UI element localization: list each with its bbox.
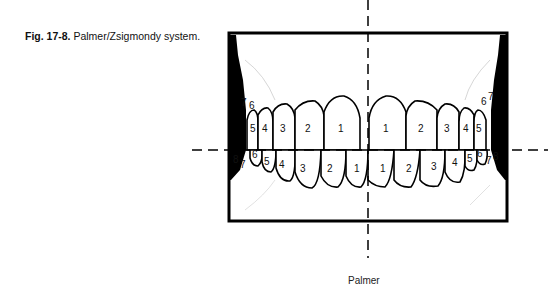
tooth-number: 7 [486,155,492,166]
tooth-number: 2 [305,123,311,134]
lip-line [245,60,275,100]
tooth-number: 3 [300,163,306,174]
tooth-number: 2 [406,163,412,174]
tooth-number: 5 [264,156,270,167]
tooth-number: 2 [327,163,333,174]
tooth-number: 6 [477,148,483,159]
lip-line [470,185,490,205]
lip-line [465,60,490,100]
tooth-number: 3 [280,123,286,134]
tooth-number: 1 [354,163,360,174]
tooth-number: 5 [467,153,473,164]
tooth-number: 5 [250,123,256,134]
tooth-number: 7 [240,159,246,170]
tooth-number: 7 [488,91,494,102]
tooth-number: 4 [279,159,285,170]
tooth-number: 4 [262,123,268,134]
tooth-number: 3 [444,123,450,134]
tooth-number: 4 [452,157,458,168]
tooth-number: 8 [233,154,239,165]
tooth-number: 1 [338,123,344,134]
tooth-number: 5 [476,123,482,134]
tooth-number: 2 [418,123,424,134]
tooth-number: 8 [493,151,499,162]
tooth-number: 6 [481,96,487,107]
tooth-number: 6 [252,149,258,160]
tooth-number: 1 [383,123,389,134]
dentition-diagram: 7 6 5 4 3 2 1 1 2 3 4 5 6 7 8 7 6 5 4 3 … [0,0,559,293]
tooth-number: 1 [380,163,386,174]
lip-line [245,180,275,210]
tooth-number: 6 [249,100,255,111]
tooth-number: 4 [463,123,469,134]
system-label: Palmer [348,275,380,286]
tooth-number: 3 [431,161,437,172]
tooth-number: 7 [241,97,247,108]
